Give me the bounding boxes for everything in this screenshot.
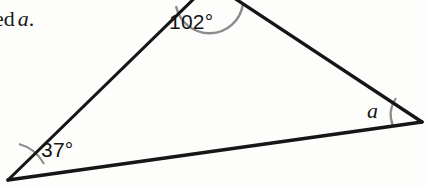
right-angle-label: a <box>367 100 378 122</box>
triangle-figure: eda. 102° 37° a <box>0 0 427 186</box>
edge-right-side <box>216 0 422 122</box>
apex-angle-label: 102° <box>169 11 213 32</box>
left-angle-label: 37° <box>41 139 73 160</box>
